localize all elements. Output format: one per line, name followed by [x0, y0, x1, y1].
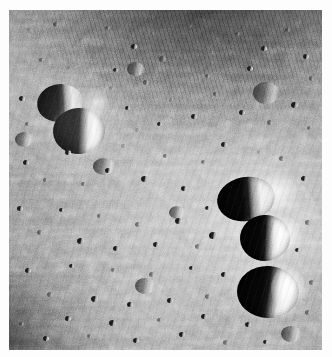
image-frame — [0, 0, 332, 357]
vignette-overlay — [9, 10, 322, 350]
planetary-surface-image — [9, 10, 322, 350]
